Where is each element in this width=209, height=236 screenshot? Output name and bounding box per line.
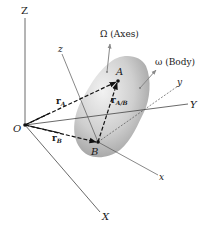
label-z: z — [57, 44, 63, 54]
label-Omega-axes: Ω (Axes) — [100, 29, 139, 39]
point-A — [116, 79, 120, 83]
label-B: B — [90, 146, 98, 157]
label-O: O — [13, 123, 21, 134]
label-rA: rA — [56, 96, 66, 107]
kinematics-diagram: Z X Y O z y x A B rA rB rA/B Ω (Axes) ω … — [0, 0, 209, 236]
label-rB: rB — [52, 133, 62, 144]
label-X: X — [101, 211, 110, 222]
point-O — [23, 123, 27, 127]
x-axis — [98, 142, 158, 175]
label-y: y — [176, 77, 183, 87]
label-A: A — [115, 66, 123, 77]
point-B — [96, 140, 100, 144]
label-x: x — [159, 172, 164, 182]
label-Y: Y — [190, 99, 198, 110]
label-Z: Z — [21, 5, 28, 16]
label-omega-body: ω (Body) — [155, 57, 195, 67]
rigid-body — [74, 56, 149, 157]
